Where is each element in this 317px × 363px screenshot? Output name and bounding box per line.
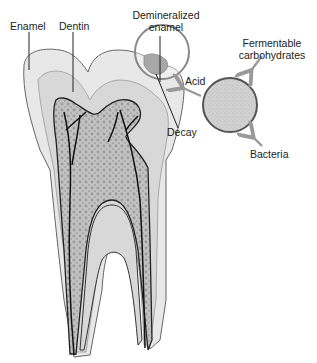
label-enamel: Enamel bbox=[10, 20, 46, 32]
label-fermentable-line1: Fermentable bbox=[232, 37, 312, 49]
label-acid: Acid bbox=[185, 75, 205, 87]
label-demineralized-line2: enamel bbox=[120, 21, 212, 33]
label-fermentable-carbohydrates: Fermentable carbohydrates bbox=[232, 37, 312, 61]
label-dentin: Dentin bbox=[59, 20, 89, 32]
label-demineralized-line1: Demineralized bbox=[120, 9, 212, 21]
bacteria-circle bbox=[203, 78, 257, 132]
label-bacteria: Bacteria bbox=[250, 148, 289, 160]
label-decay: Decay bbox=[167, 126, 197, 138]
label-fermentable-line2: carbohydrates bbox=[232, 49, 312, 61]
label-demineralized-enamel: Demineralized enamel bbox=[120, 9, 212, 33]
